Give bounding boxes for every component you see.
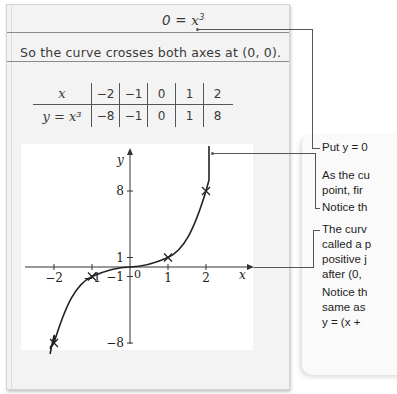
table-cell: −2 — [91, 83, 119, 104]
table-cell: 0 — [147, 83, 175, 104]
y-tick-label: 8 — [116, 184, 124, 198]
equation-variable: x — [191, 12, 199, 28]
graph-card: −2 −1 0 1 2 x 8 1 −1 −8 y — [21, 144, 253, 350]
connector-line — [313, 230, 320, 231]
equation-lhs: 0 = — [162, 12, 187, 28]
table-row-x: x −2 −1 0 1 2 — [33, 83, 233, 105]
connector-line — [315, 153, 316, 208]
table-cell: −1 — [119, 105, 147, 127]
connector-line — [214, 153, 315, 154]
note-put-y-0: Put y = 0 — [322, 140, 397, 155]
note-notice-2: Notice th same as y = (x + — [322, 285, 397, 330]
note-notice-1: Notice th — [322, 200, 397, 215]
x-axis-arrow-icon — [247, 264, 254, 270]
conclusion-label: So the curve crosses both axes at (0, 0)… — [20, 45, 281, 60]
y-tick-label: −8 — [106, 336, 124, 350]
x-tick-label: 2 — [202, 271, 210, 285]
connector-line — [313, 230, 314, 268]
origin-label: 0 — [134, 268, 141, 281]
table-cell: 8 — [203, 105, 231, 127]
values-table: x −2 −1 0 1 2 y = x³ −8 −1 0 1 8 — [33, 83, 233, 127]
ruled-line — [7, 61, 289, 62]
note-point-of-inflection: The curv called a p positive j after (0, — [322, 222, 397, 282]
table-cell: −1 — [119, 83, 147, 104]
connector-line — [312, 29, 313, 148]
equation-exponent: 3 — [199, 13, 204, 22]
table-cell: 1 — [175, 83, 203, 104]
x-tick-label: 1 — [164, 271, 172, 285]
x-tick-label: −2 — [45, 271, 63, 285]
y-tick-label: 1 — [116, 251, 124, 265]
conclusion-text: So the curve crosses both axes at (0, 0)… — [20, 45, 281, 60]
connector-line — [199, 29, 312, 30]
equation-line: 0 = x3 — [162, 12, 204, 28]
y-tick-label: −1 — [106, 270, 124, 284]
connector-line — [312, 148, 320, 149]
table-cell: 2 — [203, 83, 231, 104]
table-header-y: y = x³ — [33, 105, 91, 127]
table-header-x: x — [33, 83, 91, 104]
x-axis-label: x — [239, 268, 246, 282]
note-turning-point: As the cu point, fir — [322, 168, 397, 198]
table-cell: 1 — [175, 105, 203, 127]
table-cell: −8 — [91, 105, 119, 127]
connector-line — [315, 208, 320, 209]
y-axis-label: y — [116, 153, 124, 167]
page-margin-line — [11, 5, 12, 389]
table-cell: 0 — [147, 105, 175, 127]
y-axis-arrow-icon — [127, 148, 133, 155]
ruled-line — [7, 32, 289, 33]
cubic-graph: −2 −1 0 1 2 x 8 1 −1 −8 y — [21, 144, 253, 350]
table-row-y: y = x³ −8 −1 0 1 8 — [33, 105, 233, 127]
connector-line — [254, 267, 314, 268]
cross-marker-icon — [164, 254, 172, 262]
